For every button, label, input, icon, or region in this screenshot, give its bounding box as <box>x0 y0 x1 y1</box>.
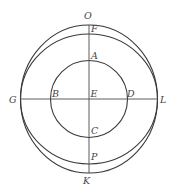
label-F: F <box>90 23 98 34</box>
label-P: P <box>90 151 98 162</box>
label-C: C <box>91 125 99 136</box>
label-E: E <box>90 88 98 99</box>
label-B: B <box>51 88 59 99</box>
label-D: D <box>126 88 135 99</box>
label-L: L <box>159 94 166 105</box>
label-K: K <box>82 175 91 186</box>
label-A: A <box>90 50 98 61</box>
label-G: G <box>9 94 17 105</box>
label-O: O <box>84 10 92 21</box>
geometry-diagram: O F A G B E D L C P K <box>0 0 175 193</box>
